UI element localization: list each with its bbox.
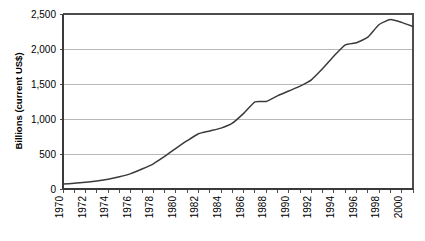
x-tick-label: 1974 [99, 196, 110, 219]
y-tick-label: 1,500 [31, 79, 56, 90]
y-tick-label: 0 [50, 184, 56, 195]
y-tick-label: 500 [39, 149, 56, 160]
x-tick-label: 1976 [122, 196, 133, 219]
x-tick-label: 2000 [393, 196, 404, 219]
y-tick-label: 2,500 [31, 9, 56, 20]
x-tick-label: 1994 [325, 196, 336, 219]
x-tick-label: 1982 [189, 196, 200, 219]
y-tick-label: 2,000 [31, 44, 56, 55]
y-axis-label: Billions (current US$) [13, 52, 24, 149]
x-tick-label: 1972 [77, 196, 88, 219]
x-tick-label: 1986 [235, 196, 246, 219]
x-tick-label: 1988 [257, 196, 268, 219]
x-tick-label: 1984 [212, 196, 223, 219]
y-tick-label: 1,000 [31, 114, 56, 125]
x-tick-label: 1970 [54, 196, 65, 219]
x-tick-label: 1980 [167, 196, 178, 219]
x-tick-label: 1996 [348, 196, 359, 219]
x-tick-label: 1998 [370, 196, 381, 219]
x-tick-label: 1978 [144, 196, 155, 219]
chart-container: 05001,0001,5002,0002,500 197019721974197… [0, 0, 425, 241]
x-tick-label: 1992 [302, 196, 313, 219]
line-chart: 05001,0001,5002,0002,500 197019721974197… [0, 0, 425, 241]
x-axis-ticks: 1970197219741976197819801982198419861988… [54, 189, 413, 218]
y-axis-ticks: 05001,0001,5002,0002,500 [31, 9, 63, 195]
x-tick-label: 1990 [280, 196, 291, 219]
